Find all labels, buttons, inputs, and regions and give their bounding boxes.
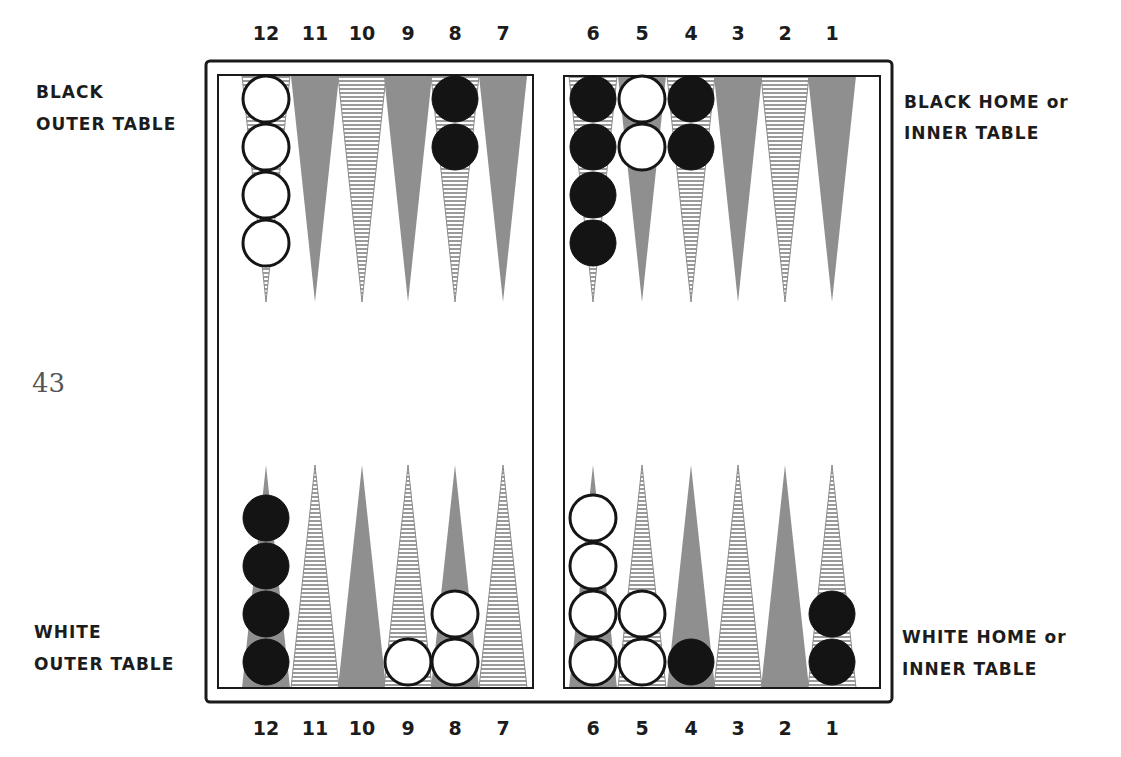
point-10-top[interactable] (338, 76, 386, 302)
white-checker[interactable] (432, 591, 478, 637)
black-checker[interactable] (809, 591, 855, 637)
black-checker[interactable] (243, 495, 289, 541)
white-checker[interactable] (619, 76, 665, 122)
black-checker[interactable] (570, 124, 616, 170)
black-checker[interactable] (243, 591, 289, 637)
white-checker[interactable] (619, 124, 665, 170)
point-10-bottom[interactable] (338, 465, 386, 688)
point-11-top[interactable] (291, 76, 339, 302)
black-checker[interactable] (809, 639, 855, 685)
point-2-bottom[interactable] (761, 465, 809, 688)
white-checker[interactable] (243, 220, 289, 266)
point-2-top[interactable] (761, 76, 809, 302)
point-7-bottom[interactable] (479, 465, 527, 688)
black-checker[interactable] (243, 543, 289, 589)
white-checker[interactable] (385, 639, 431, 685)
black-checker[interactable] (432, 124, 478, 170)
white-checker[interactable] (570, 591, 616, 637)
point-9-top[interactable] (384, 76, 432, 302)
black-checker[interactable] (570, 220, 616, 266)
checkers-layer (243, 76, 855, 685)
black-checker[interactable] (243, 639, 289, 685)
white-checker[interactable] (619, 591, 665, 637)
white-checker[interactable] (243, 76, 289, 122)
black-checker[interactable] (432, 76, 478, 122)
backgammon-board (0, 0, 1121, 757)
black-checker[interactable] (570, 76, 616, 122)
white-checker[interactable] (570, 543, 616, 589)
white-checker[interactable] (570, 495, 616, 541)
white-checker[interactable] (243, 172, 289, 218)
point-3-top[interactable] (714, 76, 762, 302)
black-checker[interactable] (668, 639, 714, 685)
point-7-top[interactable] (479, 76, 527, 302)
white-checker[interactable] (619, 639, 665, 685)
white-checker[interactable] (432, 639, 478, 685)
black-checker[interactable] (570, 172, 616, 218)
black-checker[interactable] (668, 124, 714, 170)
point-11-bottom[interactable] (291, 465, 339, 688)
white-checker[interactable] (243, 124, 289, 170)
white-checker[interactable] (570, 639, 616, 685)
points-layer (242, 76, 856, 688)
point-1-top[interactable] (808, 76, 856, 302)
black-checker[interactable] (668, 76, 714, 122)
point-3-bottom[interactable] (714, 465, 762, 688)
